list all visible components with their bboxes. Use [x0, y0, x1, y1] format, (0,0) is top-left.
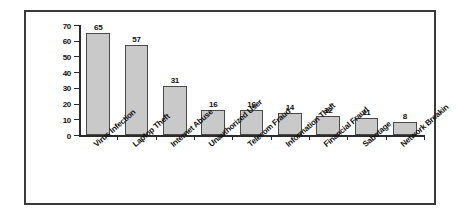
chart-frame: 010203040506070 65573116161412118 Virus … — [24, 10, 436, 205]
y-tick-label: 60 — [63, 37, 71, 46]
x-tick — [386, 135, 387, 140]
y-tick: 10 — [74, 119, 79, 120]
y-tick: 40 — [74, 72, 79, 73]
y-tick-label: 20 — [63, 100, 71, 109]
bar-value-label: 57 — [132, 35, 140, 44]
x-tick — [309, 135, 310, 140]
y-tick: 0 — [74, 135, 79, 136]
y-tick: 20 — [74, 104, 79, 105]
x-tick — [271, 135, 272, 140]
plot-area: 010203040506070 65573116161412118 Virus … — [79, 25, 424, 135]
y-tick-label: 10 — [63, 115, 71, 124]
y-tick: 50 — [74, 56, 79, 57]
y-tick-label: 50 — [63, 52, 71, 61]
figure-canvas: 010203040506070 65573116161412118 Virus … — [0, 0, 456, 221]
bar-value-label: 8 — [403, 112, 407, 121]
y-tick: 30 — [74, 88, 79, 89]
x-tick — [194, 135, 195, 140]
x-tick — [424, 135, 425, 140]
bar: 31 — [163, 86, 187, 135]
y-tick-label: 0 — [67, 131, 71, 140]
y-tick-label: 30 — [63, 84, 71, 93]
bar-value-label: 16 — [209, 100, 217, 109]
y-tick-label: 40 — [63, 68, 71, 77]
y-tick-label: 70 — [63, 21, 71, 30]
x-tick — [156, 135, 157, 140]
y-axis-line — [79, 25, 81, 135]
bar-value-label: 65 — [94, 23, 102, 32]
bar: 65 — [86, 33, 110, 135]
x-tick — [232, 135, 233, 140]
bar-value-label: 31 — [171, 76, 179, 85]
y-tick: 70 — [74, 25, 79, 26]
y-tick: 60 — [74, 41, 79, 42]
x-tick — [117, 135, 118, 140]
x-tick — [347, 135, 348, 140]
